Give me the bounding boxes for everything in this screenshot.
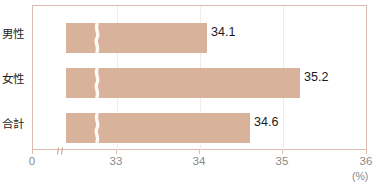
value-label-total: 34.6	[254, 115, 278, 129]
value-label-male: 34.1	[211, 25, 235, 39]
axis-unit-label: (%)	[352, 170, 368, 182]
category-label-male: 男性	[2, 28, 30, 40]
category-label-female: 女性	[2, 73, 30, 85]
axis-break-wave-icon	[92, 113, 102, 143]
x-axis: 0 33 34 35 36 (%)	[0, 150, 386, 187]
axis-break-wave-icon	[92, 23, 102, 53]
tick-mark-35	[282, 150, 283, 154]
tick-label-0: 0	[22, 155, 42, 168]
axis-break-wave-icon	[92, 68, 102, 98]
bar-male	[66, 23, 207, 53]
bar-female	[66, 68, 300, 98]
tick-mark-36	[366, 150, 367, 154]
category-label-total: 合計	[2, 118, 30, 130]
tick-label-34: 34	[187, 155, 211, 168]
tick-mark-0	[32, 150, 33, 154]
tick-label-33: 33	[104, 155, 128, 168]
tick-mark-34	[199, 150, 200, 154]
value-label-female: 35.2	[304, 70, 328, 84]
tick-label-36: 36	[354, 155, 378, 168]
bar-chart: 男性 女性 合計 34.1 35.2 34.6	[0, 0, 386, 187]
tick-label-35: 35	[270, 155, 294, 168]
tick-mark-33	[116, 150, 117, 154]
bar-total	[66, 113, 250, 143]
axis-break-marker-icon	[55, 145, 66, 156]
